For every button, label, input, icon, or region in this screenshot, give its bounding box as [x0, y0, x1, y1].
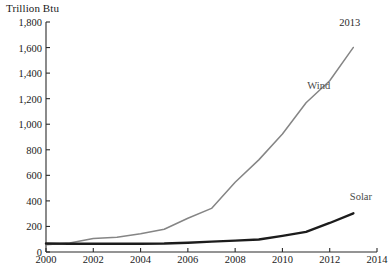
y-axis-tick-label: 800 — [26, 144, 42, 155]
y-axis-unit-label: Trillion Btu — [6, 2, 59, 14]
wind-series-label: Wind — [307, 80, 330, 91]
x-axis-tick-label: 2014 — [367, 254, 388, 265]
x-axis-tick-label: 2004 — [130, 254, 151, 265]
x-axis-tick-labels: 20002002200420062008201020122014 — [46, 254, 377, 272]
series-line-wind — [46, 47, 353, 244]
x-axis-tick-label: 2002 — [83, 254, 104, 265]
x-axis-tick-label: 2008 — [225, 254, 246, 265]
end-year-annotation: 2013 — [339, 17, 360, 28]
solar-series-label: Solar — [350, 191, 372, 202]
x-axis-tick-label: 2012 — [319, 254, 340, 265]
y-axis-tick-label: 1,000 — [18, 119, 42, 130]
plot-svg — [46, 22, 377, 252]
y-axis-tick-label: 200 — [26, 221, 42, 232]
y-axis-tick-label: 1,200 — [18, 93, 42, 104]
y-axis-tick-label: 1,600 — [18, 42, 42, 53]
y-axis-tick-labels: 02004006008001,0001,2001,4001,6001,800 — [0, 22, 42, 252]
x-axis-tick-label: 2006 — [177, 254, 198, 265]
y-axis-tick-label: 1,400 — [18, 68, 42, 79]
y-axis-tick-label: 1,800 — [18, 17, 42, 28]
x-axis-tick-label: 2000 — [36, 254, 57, 265]
y-axis-tick-label: 400 — [26, 195, 42, 206]
x-axis-tick-label: 2010 — [272, 254, 293, 265]
plot-area — [46, 22, 377, 252]
y-axis-tick-label: 600 — [26, 170, 42, 181]
